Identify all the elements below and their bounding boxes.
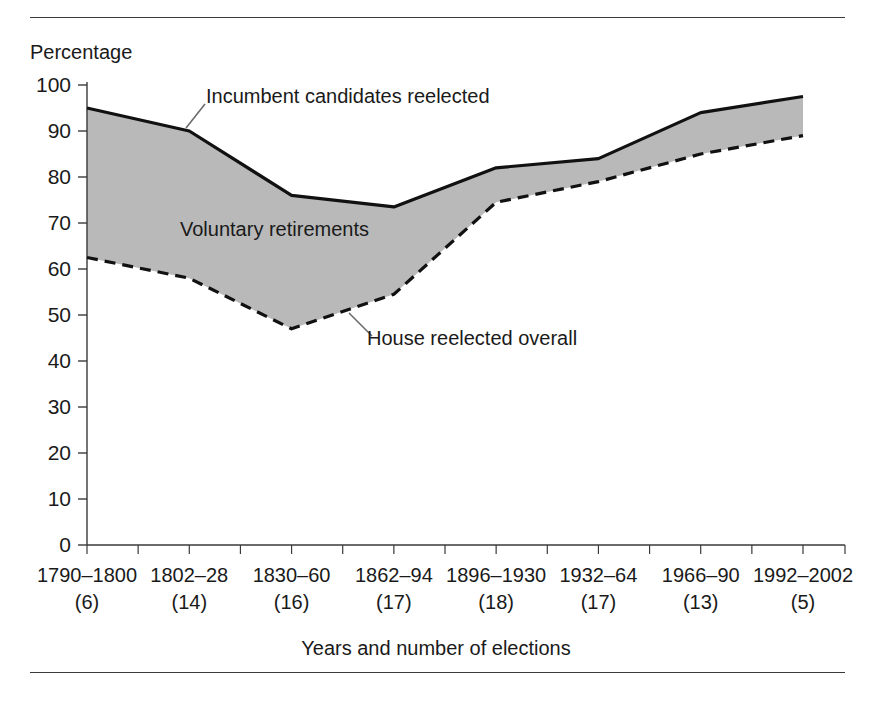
annotation-house-reelected-overall: House reelected overall — [367, 328, 577, 348]
annotation-incumbent-candidates-reelected: Incumbent candidates reelected — [206, 86, 490, 106]
y-axis-tick-label: 30 — [17, 396, 71, 417]
x-axis-title: Years and number of elections — [0, 637, 872, 660]
figure-container: Percentage 0102030405060708090100 1790–1… — [0, 0, 872, 701]
y-axis-tick-label: 80 — [17, 166, 71, 187]
voluntary-retirements-band — [87, 97, 803, 329]
y-axis-tick-label: 10 — [17, 488, 71, 509]
x-axis-tick-label-group: 1992–2002(5) — [733, 562, 872, 616]
y-axis-tick-label: 70 — [17, 212, 71, 233]
y-axis-tick-label: 100 — [17, 74, 71, 95]
y-axis-tick-label: 50 — [17, 304, 71, 325]
x-axis-tick-years: 1992–2002 — [733, 562, 872, 589]
y-axis-tick-label: 40 — [17, 350, 71, 371]
y-axis-tick-label: 60 — [17, 258, 71, 279]
y-axis-tick-label: 20 — [17, 442, 71, 463]
annotation-voluntary-retirements: Voluntary retirements — [180, 219, 369, 239]
x-axis-tick-election-count: (5) — [733, 589, 872, 616]
y-axis-tick-label: 0 — [17, 534, 71, 555]
y-axis-tick-label: 90 — [17, 120, 71, 141]
